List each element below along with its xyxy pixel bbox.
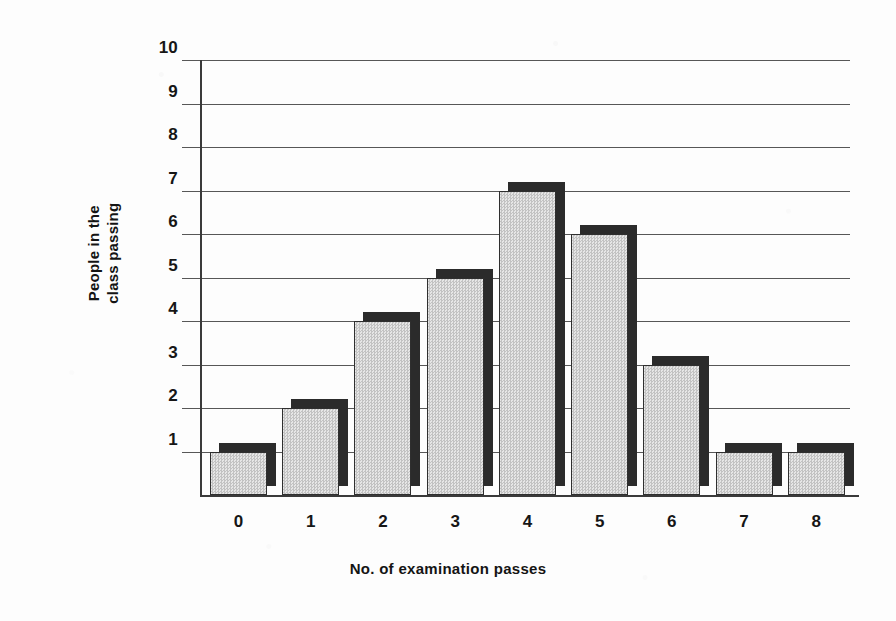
- y-axis-title-line-2: class passing: [103, 168, 122, 338]
- bar-front-face: [643, 365, 700, 496]
- category-tick-label-6: 6: [642, 512, 702, 532]
- category-axis-tick-labels: 012345678: [200, 512, 850, 542]
- bar-front-face: [788, 452, 845, 496]
- category-tick-label-7: 7: [714, 512, 774, 532]
- bar-4: [499, 191, 556, 496]
- plot-area: [200, 60, 850, 495]
- value-tick-label-8: 8: [132, 125, 178, 145]
- category-tick-label-5: 5: [570, 512, 630, 532]
- bar-series: [200, 60, 850, 495]
- bar-front-face: [499, 191, 556, 496]
- value-tick-label-10: 10: [132, 38, 178, 58]
- y-axis-title: People in the class passing: [26, 178, 176, 328]
- bar-front-face: [571, 234, 628, 495]
- category-tick-label-4: 4: [497, 512, 557, 532]
- category-tick-label-0: 0: [209, 512, 269, 532]
- value-tick-label-2: 2: [132, 386, 178, 406]
- category-axis-line: [200, 495, 859, 497]
- value-tick-label-9: 9: [132, 82, 178, 102]
- bar-front-face: [282, 408, 339, 495]
- bar-front-face: [354, 321, 411, 495]
- bar-8: [788, 452, 845, 496]
- bar-front-face: [716, 452, 773, 496]
- bar-6: [643, 365, 700, 496]
- bar-front-face: [427, 278, 484, 496]
- bar-7: [716, 452, 773, 496]
- category-tick-label-2: 2: [353, 512, 413, 532]
- y-axis-title-line-1: People in the: [84, 168, 103, 338]
- bar-1: [282, 408, 339, 495]
- category-tick-label-8: 8: [786, 512, 846, 532]
- bar-front-face: [210, 452, 267, 496]
- value-tick-label-1: 1: [132, 430, 178, 450]
- bar-5: [571, 234, 628, 495]
- x-axis-title: No. of examination passes: [0, 560, 896, 577]
- bar-3: [427, 278, 484, 496]
- bar-chart-figure: 12345678910 012345678 People in the clas…: [0, 0, 896, 621]
- value-tick-label-3: 3: [132, 343, 178, 363]
- category-tick-label-1: 1: [281, 512, 341, 532]
- category-tick-label-3: 3: [425, 512, 485, 532]
- bar-0: [210, 452, 267, 496]
- bar-2: [354, 321, 411, 495]
